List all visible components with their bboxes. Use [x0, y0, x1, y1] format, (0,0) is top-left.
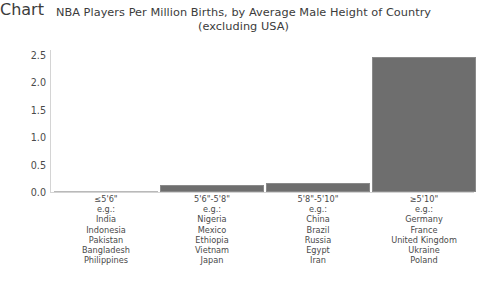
y-tick-2.5: 2.5	[2, 50, 46, 61]
x-category-1-country-4: Bangladesh	[54, 245, 158, 255]
x-category-4: ≥5'10" e.g.: Germany France United Kingd…	[372, 194, 476, 265]
x-category-2-eg: e.g.:	[160, 204, 264, 214]
x-category-4-country-2: France	[372, 225, 476, 235]
x-category-3-eg: e.g.:	[266, 204, 370, 214]
x-category-3-country-1: China	[266, 214, 370, 224]
bar-5-8-to-5-10[interactable]	[266, 183, 370, 192]
x-category-2: 5'6"-5'8" e.g.: Nigeria Mexico Ethiopia …	[160, 194, 264, 265]
x-axis-category-labels: ≤5'6" e.g.: India Indonesia Pakistan Ban…	[50, 194, 474, 290]
x-category-1-country-3: Pakistan	[54, 235, 158, 245]
y-tick-2.0: 2.0	[2, 77, 46, 88]
x-category-4-range: ≥5'10"	[372, 194, 476, 204]
x-category-3-country-2: Brazil	[266, 225, 370, 235]
x-category-2-country-5: Japan	[160, 255, 264, 265]
x-category-4-eg: e.g.:	[372, 204, 476, 214]
x-category-1-country-2: Indonesia	[54, 225, 158, 235]
x-category-3-country-3: Russia	[266, 235, 370, 245]
x-category-1-country-5: Philippines	[54, 255, 158, 265]
bar-slot-4	[372, 50, 476, 192]
x-category-1-country-1: India	[54, 214, 158, 224]
bar-slot-2	[160, 50, 264, 192]
y-tick-1.0: 1.0	[2, 132, 46, 143]
x-category-1-eg: e.g.:	[54, 204, 158, 214]
chart-title-line-1: NBA Players Per Million Births, by Avera…	[0, 6, 487, 20]
x-category-2-country-1: Nigeria	[160, 214, 264, 224]
x-category-4-country-3: United Kingdom	[372, 235, 476, 245]
chart-title: NBA Players Per Million Births, by Avera…	[0, 6, 487, 34]
x-category-3-range: 5'8"-5'10"	[266, 194, 370, 204]
x-category-4-country-4: Ukraine	[372, 245, 476, 255]
bar-slot-1	[54, 50, 158, 192]
y-tick-0.0: 0.0	[2, 187, 46, 198]
y-tick-1.5: 1.5	[2, 104, 46, 115]
x-category-3: 5'8"-5'10" e.g.: China Brazil Russia Egy…	[266, 194, 370, 265]
x-category-1-range: ≤5'6"	[54, 194, 158, 204]
plot-area	[50, 50, 474, 192]
x-category-3-country-4: Egypt	[266, 245, 370, 255]
chart-figure: NBA Players Per Million Births, by Avera…	[0, 0, 487, 290]
chart-title-line-2: (excluding USA)	[0, 20, 487, 34]
x-category-4-country-5: Poland	[372, 255, 476, 265]
x-category-2-country-4: Vietnam	[160, 245, 264, 255]
bar-ge-5-10[interactable]	[372, 57, 476, 192]
x-category-2-country-3: Ethiopia	[160, 235, 264, 245]
x-axis-line	[50, 192, 474, 193]
y-tick-0.5: 0.5	[2, 159, 46, 170]
x-category-2-range: 5'6"-5'8"	[160, 194, 264, 204]
x-category-1: ≤5'6" e.g.: India Indonesia Pakistan Ban…	[54, 194, 158, 265]
bar-5-6-to-5-8[interactable]	[160, 185, 264, 192]
y-axis-tick-labels: 2.5 2.0 1.5 1.0 0.5 0.0	[0, 0, 46, 290]
bar-slot-3	[266, 50, 370, 192]
x-category-2-country-2: Mexico	[160, 225, 264, 235]
x-category-3-country-5: Iran	[266, 255, 370, 265]
x-category-4-country-1: Germany	[372, 214, 476, 224]
